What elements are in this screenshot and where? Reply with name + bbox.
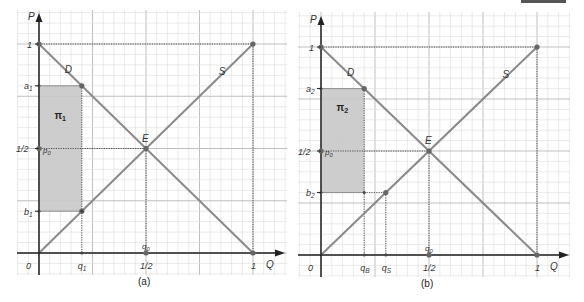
equilibrium-label: E [142,133,149,144]
supply-demand-figure: PQ011/21/21DSEp0q0a1b1π1q1(a) PQ011/21/2… [0,0,584,302]
panel-b: PQ011/21/21DSEp0q0a2b2π2qBqS(b) [298,12,570,289]
panel-a: PQ011/21/21DSEp0q0a1b1π1q1(a) [16,10,287,287]
y-tick-label-half: 1/2 [298,147,311,157]
lower-price-label: b1 [24,207,33,218]
point-equilibrium [426,148,431,153]
quantity-label-qB: qB [360,263,370,274]
x-axis-arrow-icon [559,252,569,259]
x-axis-label: Q [266,259,274,270]
panel-caption: (a) [138,276,150,287]
tick-dot [80,252,83,255]
supply-label: S [502,69,509,80]
tick-dot [384,254,387,257]
y-tick-label-one: 1 [27,40,32,50]
point-demand-rationed [362,86,367,91]
y-tick-label-half: 1/2 [16,144,29,154]
point-equilibrium [143,146,148,151]
x-tick-label-half: 1/2 [140,261,153,271]
y-axis-label: P [310,14,317,25]
upper-price-label: a1 [24,81,33,92]
tick-dot [80,210,83,213]
y-axis-arrow-icon [318,16,325,25]
quantity-label-qS: qS [382,263,392,274]
demand-label: D [65,64,72,75]
x-tick-label-one: 1 [535,263,540,273]
point-demand-bottom [250,250,255,255]
x-axis-arrow-icon [275,250,285,257]
tick-dot [363,191,366,194]
x-tick-label-half: 1/2 [423,263,436,273]
point-demand-rationed [79,83,84,88]
y-axis-arrow-icon [36,13,43,22]
panel-caption: (b) [421,278,433,289]
top-bar [521,0,566,3]
point-supply-top [250,41,255,46]
demand-label: D [347,67,354,78]
tick-dot [363,254,366,257]
q0-label: q0 [425,244,433,254]
x-axis-label: Q [550,261,558,272]
lower-price-label: b2 [306,188,315,199]
quantity-label-q1: q1 [78,261,87,272]
point-demand-bottom [534,252,539,257]
supply-label: S [219,66,226,77]
upper-price-label: a2 [306,84,315,95]
origin-label: 0 [26,261,31,271]
point-supply-rationed [383,190,388,195]
x-tick-label-one: 1 [251,261,256,271]
point-supply-top [534,44,539,49]
equilibrium-label: E [425,135,432,146]
origin-label: 0 [308,263,313,273]
q0-label: q0 [142,242,150,252]
y-tick-label-one: 1 [309,43,314,53]
y-axis-label: P [28,11,35,22]
